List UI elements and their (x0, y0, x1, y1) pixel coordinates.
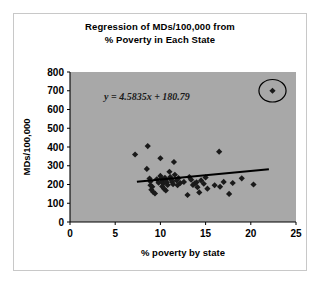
y-tick-label: 100 (47, 198, 64, 209)
x-tick-label: 20 (245, 228, 257, 239)
x-tick-label: 25 (290, 228, 302, 239)
x-tick-label: 5 (112, 228, 118, 239)
y-tick-label: 300 (47, 160, 64, 171)
y-tick-label: 400 (47, 142, 64, 153)
y-axis-title: MDs/100,000 (21, 118, 32, 175)
y-tick-label: 500 (47, 123, 64, 134)
y-tick-label: 700 (47, 85, 64, 96)
x-tick-label: 10 (155, 228, 167, 239)
x-tick-label: 0 (67, 228, 73, 239)
x-axis-title: % poverty by state (141, 247, 225, 258)
y-tick-label: 800 (47, 67, 64, 78)
scatter-plot-svg: 01002003004005006007008000510152025 y = … (0, 0, 321, 289)
x-tick-label: 15 (200, 228, 212, 239)
y-tick-label: 600 (47, 104, 64, 115)
chart-container: Regression of MDs/100,000 from % Poverty… (0, 0, 321, 289)
y-tick-label: 0 (58, 217, 64, 228)
regression-equation-label: y = 4.5835x + 180.79 (103, 91, 190, 102)
y-tick-label: 200 (47, 179, 64, 190)
